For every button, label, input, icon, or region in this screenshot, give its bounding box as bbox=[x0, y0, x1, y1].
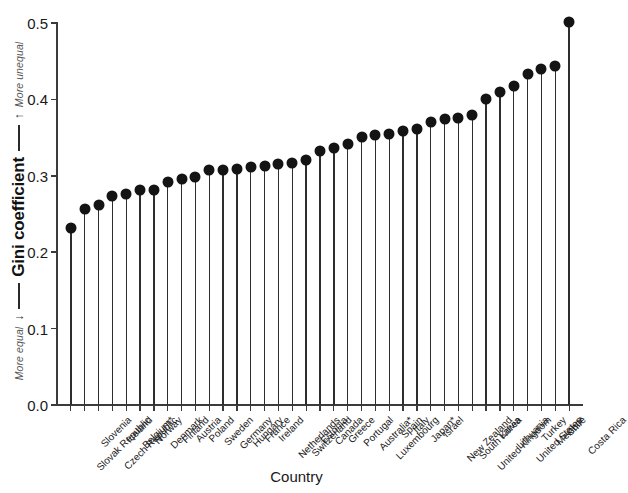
y-axis-tick-mark bbox=[51, 175, 57, 177]
x-axis-tick-mark bbox=[499, 405, 500, 411]
data-point-stem bbox=[84, 209, 85, 405]
x-axis-tick-mark bbox=[195, 405, 196, 411]
data-point-marker[interactable] bbox=[564, 17, 575, 28]
data-point-marker[interactable] bbox=[411, 124, 422, 135]
data-point-stem bbox=[333, 148, 334, 405]
data-point-marker[interactable] bbox=[550, 60, 561, 71]
data-point-marker[interactable] bbox=[328, 143, 339, 154]
data-point-stem bbox=[513, 86, 514, 405]
y-axis-note-more-equal: More equal bbox=[13, 327, 25, 381]
data-point-stem bbox=[444, 119, 445, 405]
data-point-marker[interactable] bbox=[494, 86, 505, 97]
x-axis-tick-mark bbox=[264, 405, 265, 411]
data-point-marker[interactable] bbox=[204, 165, 215, 176]
data-point-marker[interactable] bbox=[245, 162, 256, 173]
x-axis-tick-mark bbox=[333, 405, 334, 411]
data-point-stem bbox=[98, 205, 99, 405]
data-point-marker[interactable] bbox=[370, 130, 381, 141]
data-point-marker[interactable] bbox=[315, 146, 326, 157]
y-axis-spine bbox=[56, 22, 58, 405]
data-point-marker[interactable] bbox=[425, 116, 436, 127]
data-point-stem bbox=[167, 182, 168, 405]
x-axis-tick-mark bbox=[126, 405, 127, 411]
data-point-stem bbox=[375, 135, 376, 405]
data-point-stem bbox=[402, 131, 403, 405]
x-axis-tick-label: Chile bbox=[565, 415, 588, 438]
x-axis-tick-mark bbox=[222, 405, 223, 411]
data-point-marker[interactable] bbox=[508, 80, 519, 91]
x-axis-tick-mark bbox=[319, 405, 320, 411]
x-axis-tick-mark bbox=[444, 405, 445, 411]
x-axis-tick-mark bbox=[139, 405, 140, 411]
data-point-marker[interactable] bbox=[162, 176, 173, 187]
x-axis-tick-mark bbox=[472, 405, 473, 411]
data-point-marker[interactable] bbox=[231, 163, 242, 174]
data-point-marker[interactable] bbox=[148, 184, 159, 195]
data-point-marker[interactable] bbox=[536, 63, 547, 74]
data-point-marker[interactable] bbox=[65, 222, 76, 233]
data-point-stem bbox=[485, 99, 486, 405]
x-axis-tick-mark bbox=[84, 405, 85, 411]
y-axis-tick-label: 0.3 bbox=[27, 167, 48, 184]
data-point-stem bbox=[181, 179, 182, 405]
x-axis-tick-mark bbox=[458, 405, 459, 411]
data-point-stem bbox=[153, 190, 154, 405]
data-point-stem bbox=[389, 134, 390, 405]
data-point-marker[interactable] bbox=[176, 173, 187, 184]
y-axis-tick-mark bbox=[51, 251, 57, 253]
data-point-marker[interactable] bbox=[93, 199, 104, 210]
data-point-marker[interactable] bbox=[481, 93, 492, 104]
data-point-marker[interactable] bbox=[356, 131, 367, 142]
data-point-marker[interactable] bbox=[259, 160, 270, 171]
data-point-marker[interactable] bbox=[439, 114, 450, 125]
data-point-marker[interactable] bbox=[467, 110, 478, 121]
x-axis-tick-mark bbox=[306, 405, 307, 411]
data-point-marker[interactable] bbox=[384, 128, 395, 139]
y-axis-title-block: More equal ↓ Gini coefficient ↑ More une… bbox=[8, 6, 30, 416]
data-point-stem bbox=[250, 167, 251, 405]
data-point-stem bbox=[278, 164, 279, 405]
x-axis-tick-mark bbox=[375, 405, 376, 411]
data-point-stem bbox=[319, 151, 320, 405]
y-axis-note-more-unequal: More unequal bbox=[13, 42, 25, 107]
x-axis-tick-mark bbox=[513, 405, 514, 411]
y-axis-tick-mark bbox=[51, 404, 57, 406]
x-axis-tick-mark bbox=[541, 405, 542, 411]
data-point-marker[interactable] bbox=[135, 185, 146, 196]
data-point-marker[interactable] bbox=[121, 189, 132, 200]
data-point-stem bbox=[126, 194, 127, 405]
x-axis-tick-mark bbox=[347, 405, 348, 411]
data-point-marker[interactable] bbox=[190, 172, 201, 183]
y-axis-rule-right bbox=[18, 125, 20, 151]
data-point-stem bbox=[541, 69, 542, 405]
y-axis-tick-mark bbox=[51, 22, 57, 24]
data-point-marker[interactable] bbox=[218, 164, 229, 175]
x-axis-tick-mark bbox=[167, 405, 168, 411]
data-point-marker[interactable] bbox=[79, 203, 90, 214]
x-axis-tick-mark bbox=[250, 405, 251, 411]
data-point-marker[interactable] bbox=[522, 69, 533, 80]
x-axis-tick-mark bbox=[70, 405, 71, 411]
data-point-marker[interactable] bbox=[398, 126, 409, 137]
data-point-stem bbox=[430, 122, 431, 405]
data-point-marker[interactable] bbox=[301, 154, 312, 165]
data-point-stem bbox=[527, 74, 528, 405]
data-point-marker[interactable] bbox=[273, 158, 284, 169]
data-point-marker[interactable] bbox=[287, 157, 298, 168]
x-axis-tick-mark bbox=[98, 405, 99, 411]
data-point-stem bbox=[112, 196, 113, 405]
data-point-marker[interactable] bbox=[342, 138, 353, 149]
x-axis-tick-mark bbox=[236, 405, 237, 411]
data-point-marker[interactable] bbox=[453, 112, 464, 123]
x-axis-tick-mark bbox=[209, 405, 210, 411]
data-point-stem bbox=[209, 170, 210, 405]
y-axis-arrow-up: ↑ bbox=[13, 113, 25, 119]
y-axis-arrow-down: ↓ bbox=[13, 315, 25, 321]
data-point-marker[interactable] bbox=[107, 191, 118, 202]
data-point-stem bbox=[347, 144, 348, 405]
data-point-stem bbox=[305, 160, 306, 405]
data-point-stem bbox=[195, 177, 196, 405]
y-axis-tick-label: 0.2 bbox=[27, 244, 48, 261]
x-axis-tick-mark bbox=[153, 405, 154, 411]
